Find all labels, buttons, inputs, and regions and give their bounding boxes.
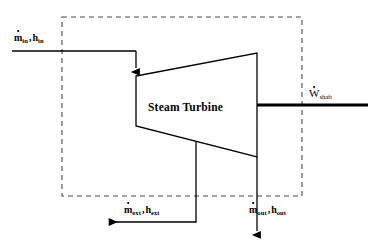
inlet-subscript: in [22, 37, 28, 44]
shaft-work-label: Wshaft [309, 88, 332, 99]
w-dot-symbol: W [309, 88, 319, 99]
extraction-stream-label: mext,hext [124, 205, 160, 215]
diagram-canvas [0, 0, 373, 249]
inlet-subscript-h: in [38, 37, 44, 44]
steam-turbine-diagram: Steam Turbine min,hin mext,hext mout,hou… [0, 0, 373, 249]
shaft-subscript: shaft [319, 93, 332, 100]
inlet-stream-label: min,hin [14, 33, 44, 43]
outlet-subscript: out [257, 209, 266, 216]
extraction-subscript: ext [132, 209, 141, 216]
work-symbol: W [309, 88, 319, 99]
enthalpy-symbol: h [271, 204, 277, 215]
outlet-subscript-h: out [277, 209, 286, 216]
turbine-label: Steam Turbine [148, 101, 223, 113]
outlet-stream-label: mout,hout [249, 205, 286, 215]
extraction-subscript-h: ext [151, 209, 160, 216]
